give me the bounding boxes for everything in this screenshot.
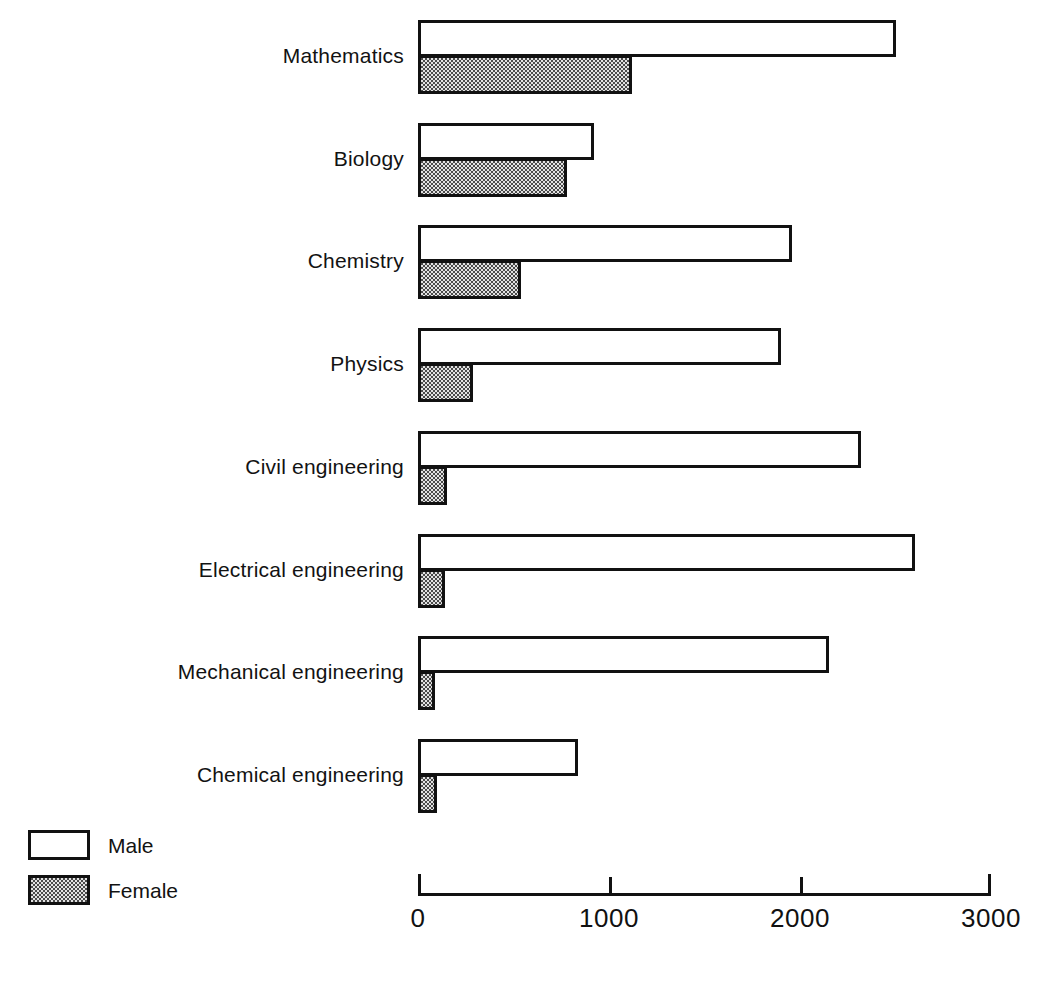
x-axis-line (418, 893, 991, 896)
bar-female (418, 158, 567, 197)
bar-male (418, 739, 578, 776)
stippled-box-swatch (28, 875, 90, 905)
legend-item: Female (28, 875, 268, 909)
bar-female (418, 466, 447, 505)
bar-male (418, 636, 829, 673)
bar-group (418, 739, 1018, 813)
category-label: Civil engineering (245, 456, 404, 477)
bar-female (418, 774, 437, 813)
bar-group (418, 123, 1018, 197)
legend-item: Male (28, 830, 268, 864)
x-axis-tick (609, 877, 612, 893)
bar-male (418, 534, 915, 571)
bar-female (418, 671, 435, 710)
category-label: Mathematics (283, 45, 404, 66)
bar-group (418, 20, 1018, 94)
x-axis-tick (418, 874, 421, 896)
bar-male (418, 431, 861, 468)
category-label: Mechanical engineering (178, 661, 404, 682)
x-axis-tick-label: 0 (411, 903, 426, 934)
bar-male (418, 328, 781, 365)
bar-group (418, 636, 1018, 710)
x-axis-tick-label: 2000 (770, 903, 830, 934)
bar-male (418, 20, 896, 57)
category-label: Chemistry (308, 250, 404, 271)
category-label: Electrical engineering (199, 559, 404, 580)
bar-female (418, 569, 445, 608)
legend-label: Male (108, 832, 154, 860)
x-axis-tick-label: 1000 (579, 903, 639, 934)
bar-group (418, 328, 1018, 402)
category-label: Biology (334, 148, 404, 169)
horizontal-grouped-bar-chart: MathematicsBiologyChemistryPhysicsCivil … (0, 0, 1052, 991)
bar-male (418, 123, 594, 160)
legend-label: Female (108, 877, 178, 905)
x-axis-tick (988, 874, 991, 896)
bar-group (418, 534, 1018, 608)
bar-group (418, 431, 1018, 505)
category-label: Chemical engineering (197, 764, 404, 785)
bar-female (418, 260, 521, 299)
bar-group (418, 225, 1018, 299)
bar-male (418, 225, 792, 262)
bar-female (418, 363, 473, 402)
x-axis: 0100020003000 (418, 893, 991, 894)
x-axis-tick-label: 3000 (961, 903, 1021, 934)
white-box-swatch (28, 830, 90, 860)
bar-female (418, 55, 632, 94)
plot-area (418, 0, 1018, 830)
category-label: Physics (330, 353, 404, 374)
x-axis-tick (800, 877, 803, 893)
